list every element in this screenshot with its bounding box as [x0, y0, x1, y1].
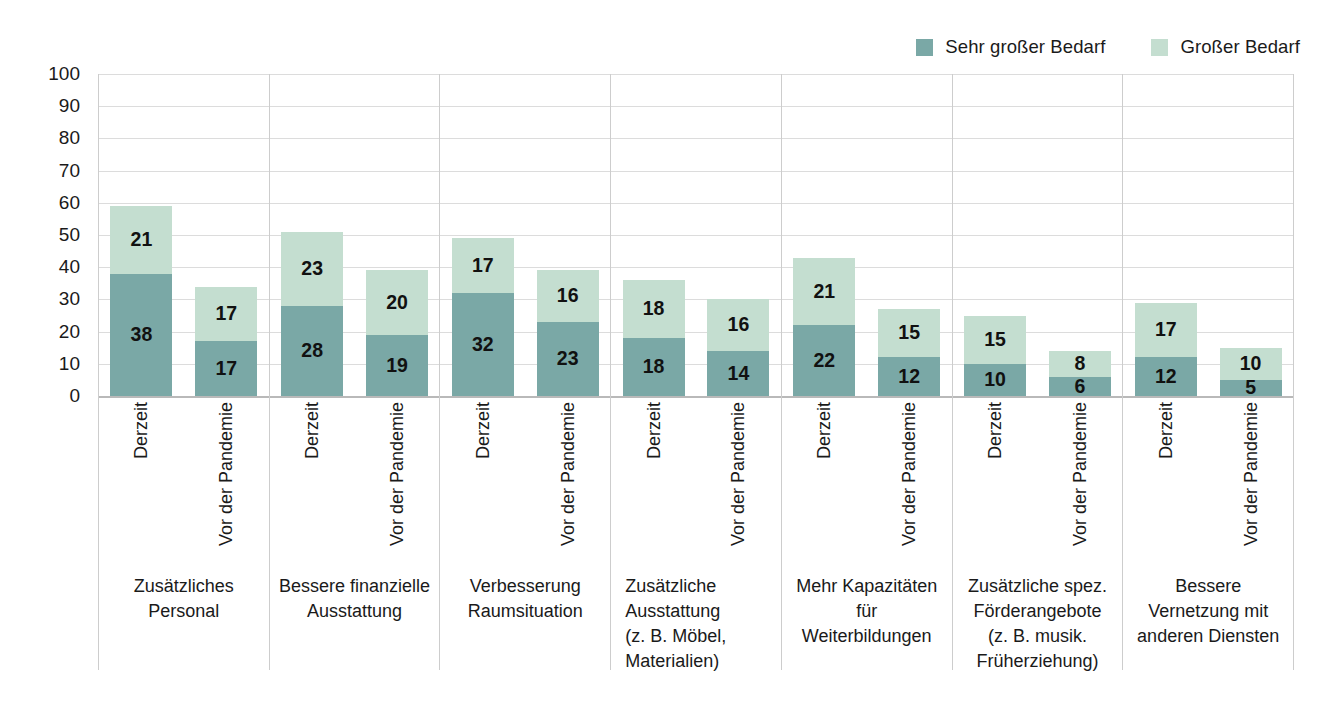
- bar-value-label: 5: [1245, 378, 1256, 398]
- bar-value-label: 15: [984, 330, 1006, 350]
- bar-segment-sehr-grosser-bedarf[interactable]: 28: [281, 306, 343, 396]
- category-label-line: Förderangebote: [959, 599, 1117, 624]
- y-axis-tick-label: 10: [59, 353, 80, 375]
- category-label-line: Mehr Kapazitäten: [788, 574, 946, 599]
- x-axis-series-label: Vor der Pandemie: [899, 402, 920, 546]
- group-bars: 17321623: [440, 74, 610, 396]
- bar-segment-grosser-bedarf[interactable]: 15: [878, 309, 940, 357]
- category-label-line: Früherziehung): [959, 649, 1117, 674]
- stacked-bar[interactable]: 1512: [878, 309, 940, 396]
- category-label-line: Zusätzliche: [625, 574, 775, 599]
- bar-segment-sehr-grosser-bedarf[interactable]: 14: [707, 351, 769, 396]
- group-series-labels: DerzeitVor der Pandemie: [953, 398, 1123, 570]
- bar-value-label: 15: [898, 323, 920, 343]
- series-label-slot: Derzeit: [281, 398, 343, 570]
- bar-segment-grosser-bedarf[interactable]: 16: [537, 270, 599, 322]
- bar-value-label: 17: [472, 256, 494, 276]
- bar-value-label: 12: [1155, 367, 1177, 387]
- stacked-bar[interactable]: 86: [1049, 351, 1111, 396]
- category-label: Mehr KapazitätenfürWeiterbildungen: [788, 574, 946, 649]
- bar-segment-sehr-grosser-bedarf[interactable]: 5: [1220, 380, 1282, 396]
- stacked-bar[interactable]: 1717: [195, 287, 257, 396]
- chart-group: 17321623DerzeitVor der PandemieVerbesser…: [440, 74, 611, 670]
- bar-segment-sehr-grosser-bedarf[interactable]: 19: [366, 335, 428, 396]
- bar-segment-grosser-bedarf[interactable]: 20: [366, 270, 428, 334]
- category-label-line: Raumsituation: [446, 599, 604, 624]
- bar-segment-grosser-bedarf[interactable]: 10: [1220, 348, 1282, 380]
- bar-segment-sehr-grosser-bedarf[interactable]: 32: [452, 293, 514, 396]
- stacked-bar[interactable]: 2138: [110, 206, 172, 396]
- bar-segment-sehr-grosser-bedarf[interactable]: 6: [1049, 377, 1111, 396]
- bar-value-label: 16: [728, 315, 750, 335]
- x-axis-series-label: Vor der Pandemie: [387, 402, 408, 546]
- bar-segment-sehr-grosser-bedarf[interactable]: 12: [1135, 357, 1197, 396]
- bar-value-label: 18: [643, 357, 665, 377]
- bar-value-label: 20: [386, 293, 408, 313]
- bar-segment-grosser-bedarf[interactable]: 17: [452, 238, 514, 293]
- category-label: VerbesserungRaumsituation: [446, 574, 604, 624]
- x-axis-series-label: Derzeit: [814, 402, 835, 459]
- category-label-line: Weiterbildungen: [788, 624, 946, 649]
- bar-segment-grosser-bedarf[interactable]: 21: [110, 206, 172, 274]
- bar-value-label: 21: [131, 230, 153, 250]
- category-label-line: Verbesserung: [446, 574, 604, 599]
- bar-value-label: 19: [386, 356, 408, 376]
- bar-segment-sehr-grosser-bedarf[interactable]: 10: [964, 364, 1026, 396]
- stacked-bar[interactable]: 1818: [623, 280, 685, 396]
- group-series-labels: DerzeitVor der Pandemie: [1123, 398, 1293, 570]
- legend-entry: Sehr großer Bedarf: [916, 36, 1105, 58]
- bar-value-label: 18: [643, 299, 665, 319]
- y-axis-tick-label: 60: [59, 192, 80, 214]
- bar-segment-grosser-bedarf[interactable]: 17: [1135, 303, 1197, 358]
- bar-segment-sehr-grosser-bedarf[interactable]: 12: [878, 357, 940, 396]
- bar-segment-grosser-bedarf[interactable]: 18: [623, 280, 685, 338]
- bar-segment-grosser-bedarf[interactable]: 16: [707, 299, 769, 351]
- stacked-bar[interactable]: 1623: [537, 270, 599, 396]
- category-label-line: Zusätzliche spez.: [959, 574, 1117, 599]
- stacked-bar[interactable]: 2328: [281, 232, 343, 396]
- y-axis-tick-label: 70: [59, 160, 80, 182]
- y-axis-tick-label: 50: [59, 224, 80, 246]
- series-label-slot: Derzeit: [1135, 398, 1197, 570]
- bar-value-label: 28: [301, 341, 323, 361]
- chart-groups: 21381717DerzeitVor der PandemieZusätzlic…: [98, 74, 1294, 670]
- category-label: ZusätzlichesPersonal: [105, 574, 263, 624]
- stacked-bar[interactable]: 2019: [366, 270, 428, 396]
- series-label-slot: Vor der Pandemie: [878, 398, 940, 570]
- category-label: Bessere finanzielleAusstattung: [276, 574, 434, 624]
- chart-group: 21221512DerzeitVor der PandemieMehr Kapa…: [782, 74, 953, 670]
- bar-value-label: 16: [557, 286, 579, 306]
- bar-segment-grosser-bedarf[interactable]: 15: [964, 316, 1026, 364]
- bar-segment-grosser-bedarf[interactable]: 23: [281, 232, 343, 306]
- legend-entry: Großer Bedarf: [1151, 36, 1300, 58]
- series-label-slot: Derzeit: [452, 398, 514, 570]
- stacked-bar-chart: Sehr großer BedarfGroßer Bedarf 10090807…: [0, 0, 1328, 709]
- group-bars: 21221512: [782, 74, 952, 396]
- bar-value-label: 10: [1240, 354, 1262, 374]
- stacked-bar[interactable]: 2122: [793, 258, 855, 396]
- bar-segment-grosser-bedarf[interactable]: 17: [195, 287, 257, 342]
- bar-segment-grosser-bedarf[interactable]: 8: [1049, 351, 1111, 377]
- stacked-bar[interactable]: 1510: [964, 316, 1026, 396]
- stacked-bar[interactable]: 1712: [1135, 303, 1197, 396]
- category-label-line: für: [788, 599, 946, 624]
- chart-group: 23282019DerzeitVor der PandemieBessere f…: [270, 74, 441, 670]
- bar-value-label: 38: [131, 325, 153, 345]
- x-axis-series-label: Derzeit: [302, 402, 323, 459]
- bar-value-label: 23: [301, 259, 323, 279]
- stacked-bar[interactable]: 1614: [707, 299, 769, 396]
- bar-segment-sehr-grosser-bedarf[interactable]: 38: [110, 274, 172, 396]
- bar-value-label: 17: [1155, 320, 1177, 340]
- x-axis-series-label: Derzeit: [131, 402, 152, 459]
- series-label-slot: Vor der Pandemie: [707, 398, 769, 570]
- bar-segment-sehr-grosser-bedarf[interactable]: 18: [623, 338, 685, 396]
- stacked-bar[interactable]: 1732: [452, 238, 514, 396]
- group-series-labels: DerzeitVor der Pandemie: [611, 398, 781, 570]
- chart-group: 21381717DerzeitVor der PandemieZusätzlic…: [98, 74, 270, 670]
- stacked-bar[interactable]: 105: [1220, 348, 1282, 396]
- bar-segment-sehr-grosser-bedarf[interactable]: 22: [793, 325, 855, 396]
- bar-segment-grosser-bedarf[interactable]: 21: [793, 258, 855, 326]
- bar-segment-sehr-grosser-bedarf[interactable]: 23: [537, 322, 599, 396]
- x-axis-series-label: Vor der Pandemie: [1069, 402, 1090, 546]
- bar-segment-sehr-grosser-bedarf[interactable]: 17: [195, 341, 257, 396]
